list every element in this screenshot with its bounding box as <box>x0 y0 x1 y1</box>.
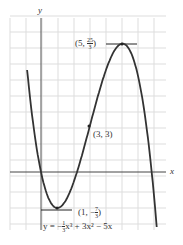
x-axis-label: x <box>170 167 174 176</box>
max-close: ) <box>93 38 96 48</box>
y-axis-label: y <box>38 6 42 15</box>
min-point-text: (1, − <box>78 207 95 217</box>
min-point-label: (1, −73) <box>78 206 101 219</box>
max-point-label: (5, 253) <box>75 37 96 50</box>
min-point-dot <box>56 207 59 210</box>
min-close: ) <box>98 207 101 217</box>
inflection-point-dot <box>88 125 91 128</box>
inflection-point-label: (3, 3) <box>93 130 113 139</box>
equation-prefix: y = − <box>43 221 62 231</box>
equation-rest: x³ + 3x² − 5x <box>65 221 112 231</box>
max-point-text: (5, <box>75 38 87 48</box>
cubic-curve <box>27 44 157 227</box>
max-point-dot <box>121 43 124 46</box>
equation-label: y = −13x³ + 3x² − 5x <box>43 220 112 233</box>
